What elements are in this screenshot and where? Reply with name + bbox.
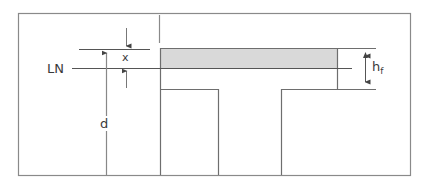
- hf-label-sub: f: [380, 66, 383, 76]
- diagram-svg: [0, 0, 425, 187]
- hf-arrow-head-top: [363, 52, 368, 58]
- neutral-line-label: LN: [47, 62, 64, 75]
- hf-label: hf: [372, 60, 383, 76]
- compression-zone: [160, 48, 337, 68]
- hf-label-main: h: [372, 59, 380, 74]
- outer-frame: [19, 14, 411, 176]
- t-beam-diagram: LN x d hf: [0, 0, 425, 187]
- d-label: d: [100, 116, 108, 131]
- x-label: x: [122, 52, 129, 63]
